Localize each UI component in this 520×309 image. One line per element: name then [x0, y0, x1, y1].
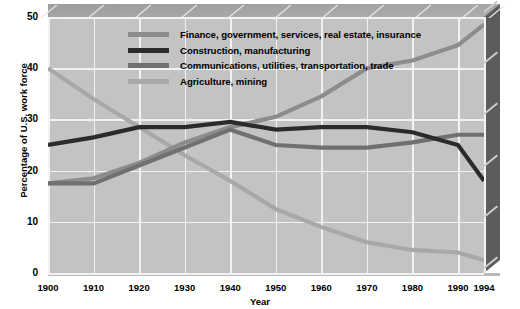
series-line [48, 68, 484, 260]
chart-legend: Finance, government, services, real esta… [128, 27, 421, 89]
gridline-horizontal [48, 273, 484, 275]
plot-box-right-face [484, 4, 500, 273]
legend-swatch-icon [128, 32, 169, 37]
y-tick-label: 10 [27, 217, 38, 227]
y-axis-title: Percentage of U.S. work force [18, 56, 29, 206]
legend-swatch-icon [128, 79, 169, 84]
x-tick-label: 1900 [31, 283, 65, 293]
x-tick-label: 1960 [304, 283, 338, 293]
legend-item[interactable]: Communications, utilities, transportatio… [128, 58, 421, 74]
x-tick-label: 1910 [77, 283, 111, 293]
legend-swatch-icon [128, 63, 169, 68]
y-tick-label: 40 [27, 63, 38, 73]
x-tick-label: 1940 [213, 283, 247, 293]
legend-label: Agriculture, mining [180, 76, 267, 87]
legend-label: Communications, utilities, transportatio… [180, 60, 393, 71]
legend-item[interactable]: Finance, government, services, real esta… [128, 27, 421, 43]
y-tick-label: 30 [27, 114, 38, 124]
x-tick-label: 1950 [259, 283, 293, 293]
gridline-vertical [484, 17, 486, 273]
chart-figure: 01020304050 1900191019201930194019501960… [0, 0, 520, 309]
legend-item[interactable]: Agriculture, mining [128, 74, 421, 90]
x-tick-label: 1980 [395, 283, 429, 293]
legend-swatch-icon [128, 48, 169, 53]
legend-label: Construction, manufacturing [180, 45, 310, 56]
y-tick-label: 20 [27, 166, 38, 176]
series-line [48, 130, 484, 184]
x-tick-label: 1920 [122, 283, 156, 293]
legend-item[interactable]: Construction, manufacturing [128, 43, 421, 59]
y-tick-label: 0 [32, 268, 38, 278]
x-tick-label: 1994 [467, 283, 501, 293]
x-axis-title: Year [0, 296, 520, 307]
y-tick-label: 50 [27, 12, 38, 22]
x-tick-label: 1970 [350, 283, 384, 293]
x-tick-label: 1930 [168, 283, 202, 293]
legend-label: Finance, government, services, real esta… [180, 29, 421, 40]
plot-box-top-bevel [48, 4, 500, 17]
